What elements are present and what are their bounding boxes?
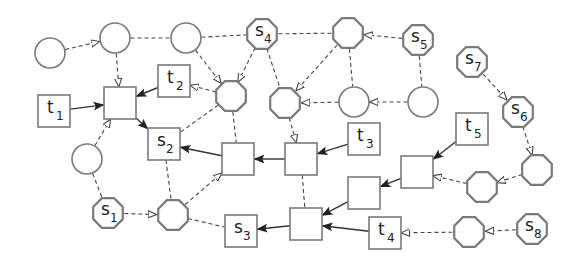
edge-s7-to-s6: [483, 74, 507, 100]
edge-t3-to-b2: [317, 144, 348, 154]
octagon-node-shape: [158, 200, 188, 230]
edge-s1-to-o4: [124, 214, 156, 215]
node-b0: [104, 87, 136, 119]
node-s7: s7: [457, 47, 487, 77]
edge-o4-to-s3: [188, 219, 225, 228]
node-c5: [408, 87, 438, 117]
node-b4: [401, 156, 433, 188]
node-o3: [270, 88, 300, 118]
node-label: t: [47, 97, 54, 117]
edge-o5-to-b4: [433, 176, 467, 184]
edge-t4-to-b3: [322, 226, 369, 231]
node-t4: t4: [369, 217, 401, 249]
square-node-shape: [401, 156, 433, 188]
edge-c3-to-o2: [196, 50, 222, 83]
node-t3: t3: [348, 123, 380, 155]
edge-o1-to-c4: [349, 49, 352, 87]
edge-s4-to-o2: [238, 48, 255, 83]
edge-c2-to-b0: [116, 54, 119, 88]
node-o2: [216, 81, 246, 111]
edge-b1-to-s2: [180, 147, 222, 156]
edge-c4-to-o3: [301, 102, 338, 103]
square-node-shape: [38, 95, 70, 127]
octagon-node-shape: [522, 155, 552, 185]
node-b1: [222, 143, 254, 175]
edge-o2-to-t2: [190, 85, 216, 92]
square-node-shape: [104, 87, 136, 119]
octagon-node-shape: [454, 217, 484, 247]
edge-c3-to-s4: [202, 35, 246, 37]
node-label-subscript: 8: [534, 227, 542, 241]
node-c3: [171, 23, 201, 53]
node-s4: s4: [247, 19, 277, 49]
node-label: s: [411, 26, 420, 46]
edge-s4-to-o3: [267, 49, 280, 89]
node-o4: [158, 200, 188, 230]
node-label: s: [511, 98, 520, 118]
node-c2: [100, 23, 130, 53]
node-o1: [333, 18, 363, 48]
edge-s6-to-o6: [523, 127, 532, 156]
node-label: s: [255, 20, 264, 40]
edge-s5-to-c5: [419, 56, 422, 87]
edge-o2-to-s2: [180, 105, 218, 132]
node-t5: t5: [456, 113, 488, 145]
square-node-shape: [158, 65, 190, 97]
edge-b0-to-s2: [136, 118, 148, 129]
edge-b4-to-b5: [380, 178, 401, 186]
edge-s2-to-o4: [166, 160, 171, 199]
circle-node-shape: [408, 87, 438, 117]
node-s6: s6: [503, 97, 533, 127]
edge-s4-to-o1: [279, 33, 332, 34]
edge-b3-to-s3: [257, 226, 290, 230]
node-s1: s1: [93, 198, 123, 228]
node-t1: t1: [38, 95, 70, 127]
node-label: t: [378, 219, 385, 239]
node-label: s: [234, 217, 243, 237]
node-c6: [72, 144, 102, 174]
node-label: s: [465, 48, 474, 68]
octagon-node-shape: [333, 18, 363, 48]
node-s3: s3: [225, 215, 257, 247]
node-s2: s2: [148, 128, 180, 160]
node-label-subscript: 7: [474, 60, 482, 74]
edge-b2-to-b3: [302, 175, 305, 208]
square-node-shape: [348, 177, 380, 209]
node-label-subscript: 2: [166, 142, 174, 156]
edge-o6-to-o5: [497, 175, 523, 183]
edge-o1-to-o3: [296, 45, 337, 91]
octagon-node-shape: [216, 81, 246, 111]
edge-c1-to-c2: [65, 42, 100, 50]
node-label: s: [157, 130, 166, 150]
node-t2: t2: [158, 65, 190, 97]
node-b2: [285, 143, 317, 175]
node-label-subscript: 5: [474, 127, 482, 141]
edge-s5-to-o1: [364, 35, 402, 39]
edge-b5-to-b3: [322, 202, 348, 216]
edge-o4-to-b1: [185, 173, 222, 205]
edge-o2-to-b1: [233, 112, 236, 143]
edge-s8-to-o7: [485, 230, 516, 231]
circle-node-shape: [100, 23, 130, 53]
octagon-node-shape: [270, 88, 300, 118]
square-node-shape: [369, 217, 401, 249]
node-label-subscript: 1: [56, 109, 64, 123]
square-node-shape: [285, 143, 317, 175]
node-label: s: [525, 215, 534, 235]
circle-node-shape: [35, 38, 65, 68]
square-node-shape: [290, 208, 322, 240]
circle-node-shape: [72, 144, 102, 174]
edge-o7-to-t4: [401, 232, 453, 233]
edge-t5-to-b4: [433, 142, 456, 160]
node-s8: s8: [517, 214, 547, 244]
square-node-shape: [348, 123, 380, 155]
edge-c6-to-b0: [95, 119, 111, 146]
node-o5: [467, 172, 497, 202]
node-b3: [290, 208, 322, 240]
circle-node-shape: [339, 87, 369, 117]
node-label-subscript: 6: [520, 110, 528, 124]
edge-t1-to-b0: [70, 105, 104, 109]
node-label: t: [357, 125, 364, 145]
node-label: s: [101, 199, 110, 219]
node-s5: s5: [403, 25, 433, 55]
